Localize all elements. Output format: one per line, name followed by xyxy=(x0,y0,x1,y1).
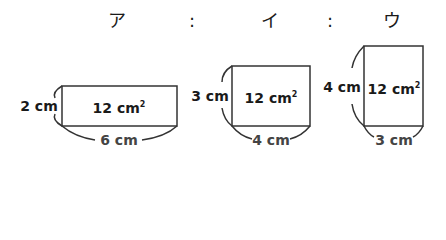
rect-i-height: 3 cm xyxy=(191,88,229,104)
rect-a-width: 6 cm xyxy=(100,132,138,148)
rect-u-width: 3 cm xyxy=(375,132,413,148)
rect-u-area: 12 cm2 xyxy=(368,78,421,97)
rect-a-height: 2 cm xyxy=(20,98,58,114)
rect-u-height: 4 cm xyxy=(323,79,361,95)
rect-i-area: 12 cm2 xyxy=(245,87,298,106)
rect-i-width: 4 cm xyxy=(252,132,290,148)
rect-a-area: 12 cm2 xyxy=(93,97,146,116)
